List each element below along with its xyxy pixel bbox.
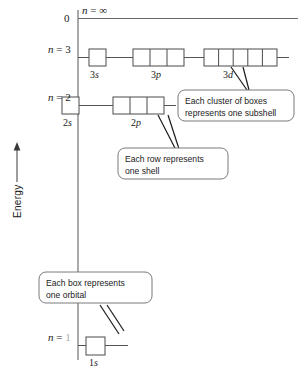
subshell-label-3d-l: d [228, 69, 233, 80]
leader-line-subshell-a [231, 67, 247, 90]
diagram-vector-layer [0, 0, 298, 367]
level-label-n-2-symbol: n [48, 91, 54, 103]
level-label-n-2-value: 2 [65, 91, 71, 103]
subshell-label-1s-l: s [94, 357, 98, 367]
orbital-box-group-3p [133, 49, 184, 66]
subshell-label-2s: 2s [63, 118, 72, 128]
leader-line-orbital-b [107, 305, 124, 331]
callout-text-shell: Each row represents one shell [125, 154, 225, 177]
callout-text-orbital: Each box represents one orbital [46, 278, 148, 301]
orbital-box-3s-1 [89, 49, 106, 66]
subshell-label-2p-l: p [136, 117, 141, 128]
subshell-label-1s: 1s [89, 358, 98, 367]
level-label-n-1-value: 1 [65, 331, 71, 343]
level-label-n-3-symbol: n [48, 43, 54, 55]
level-label-n-2: n = 2 [48, 92, 71, 103]
subshell-label-3p-l: p [156, 69, 161, 80]
subshell-label-3s: 3s [90, 70, 99, 80]
level-label-n-1-symbol: n [48, 331, 54, 343]
axis-zero-label: 0 [64, 13, 70, 24]
subshell-label-2s-l: s [68, 117, 72, 128]
callout-text-subshell: Each cluster of boxes represents one sub… [185, 96, 289, 119]
level-label-n-3-value: 3 [65, 43, 71, 55]
orbital-box-group-3d [204, 49, 277, 66]
level-label-n-1: n = 1 [48, 332, 71, 343]
energy-axis-label: Energy [13, 185, 23, 219]
orbital-box-1s-1 [86, 337, 105, 355]
subshell-label-2p: 2p [131, 118, 141, 128]
level-label-n-3: n = 3 [48, 44, 71, 55]
subshell-label-3p: 3p [151, 70, 161, 80]
energy-arrow-head [14, 142, 21, 151]
energy-level-diagram: 0 Energy n = ∞ n = 3 n = 2 n = 1 3s 3p 3… [0, 0, 298, 367]
level-label-n-infinity-symbol: n [82, 4, 88, 16]
orbital-box-group-2p [113, 97, 164, 114]
subshell-label-3d: 3d [223, 70, 233, 80]
subshell-label-3s-l: s [95, 69, 99, 80]
level-label-n-infinity-value: ∞ [99, 4, 107, 16]
level-label-n-infinity: n = ∞ [82, 5, 107, 16]
